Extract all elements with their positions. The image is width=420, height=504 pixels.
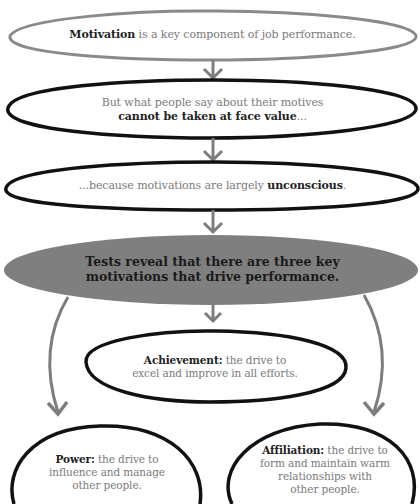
node-motivation-text: is a key component of job performance. (135, 28, 355, 41)
node-three-motivations: Tests reveal that there are three key mo… (20, 254, 405, 284)
node-power-line1: the drive to (95, 453, 159, 465)
node-affiliation-line1: the drive to (324, 444, 388, 456)
node-power: Power: the drive to influence and manage… (22, 453, 192, 492)
node-unconscious-prefix: ...because motivations are largely (79, 179, 268, 192)
node-motivation-bold: Motivation (69, 28, 135, 41)
node-affiliation-line4: other people. (240, 483, 410, 496)
arrow-curved-left-icon (48, 297, 68, 414)
node-power-line3: other people. (22, 479, 192, 492)
node-face-value-line1: But what people say about their motives (20, 96, 405, 110)
node-affiliation: Affiliation: the drive to form and maint… (240, 444, 410, 496)
node-achievement-line1: the drive to (222, 354, 286, 366)
arrow-down-icon (204, 138, 222, 160)
node-unconscious-suffix: . (343, 179, 346, 192)
arrow-down-icon (205, 305, 221, 321)
node-unconscious-bold: unconscious (267, 179, 343, 192)
node-three-motivations-line1: Tests reveal that there are three key (20, 254, 405, 269)
node-unconscious: ...because motivations are largely uncon… (20, 179, 405, 192)
node-power-line2: influence and manage (22, 466, 192, 479)
node-face-value-bold: cannot be taken at face value (118, 110, 296, 123)
arrow-curved-right-icon (364, 295, 384, 414)
node-motivation: Motivation is a key component of job per… (20, 28, 405, 41)
diagram-canvas (0, 0, 420, 504)
node-three-motivations-line2: motivations that drive performance. (20, 269, 405, 284)
node-face-value-suffix: ... (297, 110, 307, 123)
node-achievement: Achievement: the drive to excel and impr… (100, 354, 330, 380)
arrow-down-icon (204, 210, 222, 232)
node-achievement-line2: excel and improve in all efforts. (100, 367, 330, 380)
arrow-down-icon (204, 60, 222, 78)
node-face-value: But what people say about their motives … (20, 96, 405, 124)
node-affiliation-line2: form and maintain warm (240, 457, 410, 470)
node-power-bold: Power: (56, 453, 95, 465)
node-achievement-bold: Achievement: (144, 354, 223, 366)
node-affiliation-bold: Affiliation: (262, 444, 324, 456)
node-affiliation-line3: relationships with (240, 470, 410, 483)
